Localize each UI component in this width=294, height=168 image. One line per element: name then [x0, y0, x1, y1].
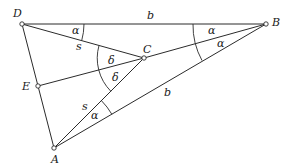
label-angle-C-upper: δ: [108, 54, 115, 67]
segment-DC: [22, 24, 144, 58]
segment-DE: [22, 24, 38, 86]
label-D: D: [12, 7, 22, 20]
label-angle-A: α: [91, 109, 99, 122]
label-angle-B-lower: α: [217, 37, 225, 50]
label-segment-DB: b: [147, 9, 154, 22]
segment-AB: [54, 24, 266, 148]
segment-EC: [38, 58, 144, 86]
point-D: [20, 22, 24, 26]
segment-CB: [144, 24, 266, 58]
label-E: E: [21, 80, 30, 93]
label-A: A: [50, 153, 59, 166]
angle-arc-A: [101, 101, 111, 115]
label-angle-C-lower: δ: [112, 71, 119, 84]
label-angle-D: α: [72, 24, 80, 37]
label-segment-AC: s: [82, 100, 88, 113]
label-C: C: [143, 43, 152, 56]
segment-EA: [38, 86, 54, 148]
point-E: [36, 84, 40, 88]
angle-arc-D: [82, 24, 84, 41]
point-A: [52, 146, 56, 150]
point-C: [142, 56, 146, 60]
label-segment-AB: b: [164, 86, 171, 99]
label-B: B: [271, 16, 280, 29]
label-segment-DC: s: [76, 40, 82, 53]
label-angle-B-upper: α: [208, 24, 216, 37]
geometry-diagram: D B C E A b s s b α α α α δ δ: [0, 0, 294, 168]
point-B: [264, 22, 268, 26]
